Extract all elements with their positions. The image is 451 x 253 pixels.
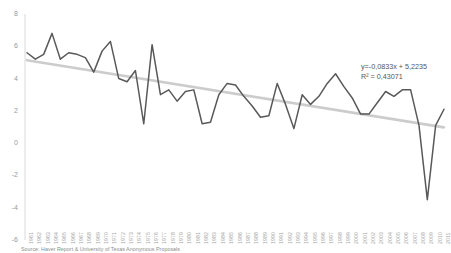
x-tick-label: 2006 (404, 232, 409, 244)
x-tick-label: 2010 (438, 232, 443, 244)
x-tick-label: 1977 (162, 232, 167, 244)
x-tick-label: 1983 (212, 232, 217, 244)
line-chart: 86420-2-4-6 1961196219631964196519661967… (0, 0, 451, 253)
x-tick-label: 1993 (296, 232, 301, 244)
x-tick-label: 2005 (396, 232, 401, 244)
x-tick-label: 1974 (137, 232, 142, 244)
regression-equation: y=-0,0833x + 5,2235 (361, 62, 427, 72)
x-tick-label: 2004 (388, 232, 393, 244)
x-tick-label: 1989 (263, 232, 268, 244)
y-tick-label: 2 (2, 107, 18, 115)
x-tick-label: 1961 (29, 232, 34, 244)
y-tick-label: 6 (2, 42, 18, 50)
x-tick-label: 1972 (121, 232, 126, 244)
source-note: Source: Haver Report & University of Tex… (21, 246, 180, 252)
x-tick-label: 1991 (279, 232, 284, 244)
regression-annotation: y=-0,0833x + 5,2235 R² = 0,43071 (361, 62, 427, 81)
x-tick-label: 1985 (229, 232, 234, 244)
y-tick-label: 0 (2, 139, 18, 147)
x-tick-label: 1987 (246, 232, 251, 244)
chart-plot-svg (0, 0, 451, 253)
x-tick-label: 1971 (112, 232, 117, 244)
y-tick-label: -4 (2, 204, 18, 212)
x-tick-label: 2011 (446, 232, 451, 244)
y-tick-label: -6 (2, 236, 18, 244)
x-tick-label: 2008 (421, 232, 426, 244)
x-tick-label: 1992 (288, 232, 293, 244)
x-tick-label: 1998 (338, 232, 343, 244)
y-tick-label: 8 (2, 10, 18, 18)
x-tick-label: 2009 (429, 232, 434, 244)
x-tick-label: 1967 (79, 232, 84, 244)
x-tick-label: 1970 (104, 232, 109, 244)
x-tick-label: 1996 (321, 232, 326, 244)
x-tick-label: 1994 (304, 232, 309, 244)
x-tick-label: 2002 (371, 232, 376, 244)
x-tick-label: 2001 (363, 232, 368, 244)
x-tick-label: 1978 (171, 232, 176, 244)
x-tick-label: 1965 (62, 232, 67, 244)
x-tick-label: 1981 (196, 232, 201, 244)
x-tick-label: 1964 (54, 232, 59, 244)
x-tick-label: 1980 (187, 232, 192, 244)
x-tick-label: 1995 (313, 232, 318, 244)
y-tick-label: -2 (2, 171, 18, 179)
x-tick-label: 1986 (238, 232, 243, 244)
x-tick-label: 1979 (179, 232, 184, 244)
x-tick-label: 1984 (221, 232, 226, 244)
x-tick-label: 1988 (254, 232, 259, 244)
x-tick-label: 1973 (129, 232, 134, 244)
x-tick-label: 1997 (329, 232, 334, 244)
chart-page: 86420-2-4-6 1961196219631964196519661967… (0, 0, 451, 253)
x-tick-label: 1975 (146, 232, 151, 244)
x-tick-label: 1962 (37, 232, 42, 244)
x-tick-label: 1976 (154, 232, 159, 244)
x-tick-label: 2000 (354, 232, 359, 244)
x-tick-label: 1982 (204, 232, 209, 244)
x-tick-label: 1969 (96, 232, 101, 244)
x-tick-label: 2003 (379, 232, 384, 244)
x-tick-label: 1968 (87, 232, 92, 244)
x-tick-label: 2007 (413, 232, 418, 244)
x-tick-label: 1990 (271, 232, 276, 244)
y-tick-label: 4 (2, 75, 18, 83)
x-tick-label: 1963 (46, 232, 51, 244)
r-squared-value: R² = 0,43071 (361, 72, 427, 82)
x-tick-label: 1966 (71, 232, 76, 244)
x-tick-label: 1999 (346, 232, 351, 244)
